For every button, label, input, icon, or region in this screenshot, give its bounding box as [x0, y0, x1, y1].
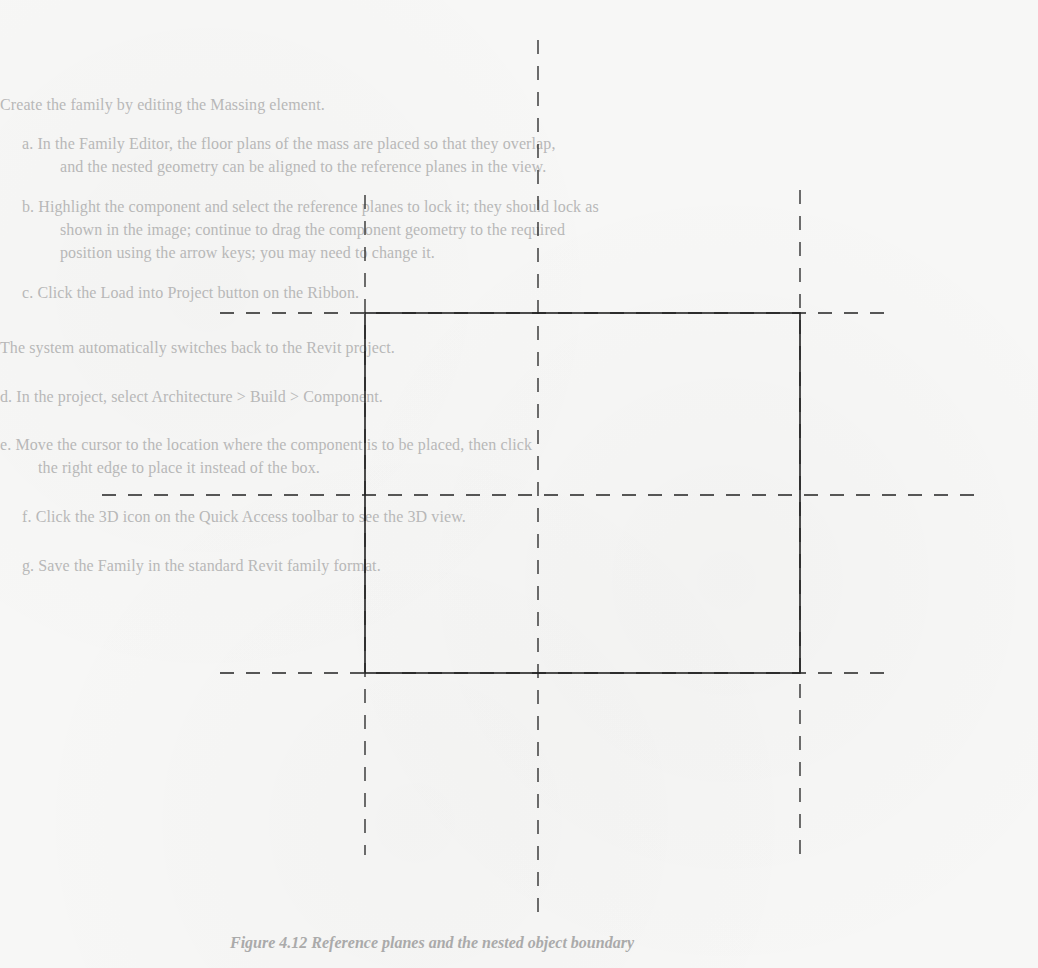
nested-object-boundary: [365, 313, 800, 673]
figure-caption: Figure 4.12 Reference planes and the nes…: [230, 934, 634, 952]
reference-plane-diagram: [0, 0, 1038, 968]
reference-planes: [102, 40, 975, 915]
